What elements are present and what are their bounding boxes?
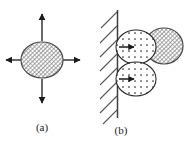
stippled-circle-upper bbox=[116, 30, 156, 64]
panel-b-caption: (b) bbox=[115, 124, 128, 137]
hatched-circle bbox=[21, 42, 63, 78]
panel-b: (b) bbox=[100, 10, 183, 137]
panel-a: (a) bbox=[6, 14, 80, 134]
figure-container: (a) bbox=[0, 0, 184, 142]
wall-hatching bbox=[100, 12, 117, 124]
panel-a-caption: (a) bbox=[36, 121, 49, 134]
figure-canvas: (a) bbox=[0, 0, 184, 142]
stippled-circle-lower bbox=[116, 62, 156, 96]
